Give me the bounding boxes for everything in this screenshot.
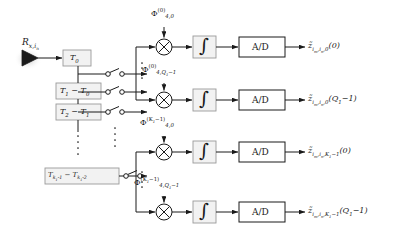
- phase-label-2: Φ(K1−1)4,0: [140, 117, 174, 129]
- integrator-symbol-0: ∫: [199, 36, 209, 55]
- integrator-symbol-3: ∫: [199, 201, 209, 220]
- vertical-dots-delay-chain: [114, 127, 116, 147]
- adc-label-3: A/D: [252, 208, 269, 217]
- output-label-1: z̃im,in,0(Q1−1): [308, 95, 357, 107]
- output-label-2: z̃im,in,K1−1(0): [308, 147, 351, 159]
- switch-pole-row-1[interactable]: [106, 90, 111, 95]
- switch-throw-row-0[interactable]: [120, 72, 125, 77]
- switch-blade-row-1[interactable]: [110, 87, 119, 91]
- switch-blade-row-0[interactable]: [110, 69, 119, 73]
- output-label-0: z̃im,in,0(0): [308, 42, 340, 54]
- phase-label-1: Φ(0)4,Q1−1: [142, 64, 176, 78]
- output-label-3: z̃im,in,K1−1(Q1−1): [308, 207, 368, 219]
- integrator-symbol-1: ∫: [199, 89, 209, 108]
- switch-pole-row-2[interactable]: [106, 110, 111, 115]
- delay-box-label-t0: T0: [70, 54, 79, 64]
- phase-label-0: Φ(0)4,0: [151, 8, 174, 20]
- delay-box-label-t1-t0: T1 − T0: [60, 87, 89, 97]
- vertical-dots-spine-chain: [77, 135, 79, 155]
- switch-blade-row-2[interactable]: [110, 107, 119, 111]
- phase-label-3: Φ(K1−1)4,Q1−1: [134, 177, 179, 191]
- source-label: Rx,in: [22, 38, 39, 51]
- switch-pole-row-3[interactable]: [124, 174, 129, 179]
- delay-box-label-t2-t1: T2 − T1: [60, 108, 89, 118]
- adc-label-0: A/D: [252, 43, 269, 52]
- switch-throw-row-2[interactable]: [120, 110, 125, 115]
- switch-pole-row-0[interactable]: [106, 72, 111, 77]
- delay-box-label-tk-last: Tk1-1 − Tk1-2: [48, 172, 87, 183]
- adc-label-2: A/D: [252, 148, 269, 157]
- switch-throw-row-1[interactable]: [120, 90, 125, 95]
- integrator-symbol-2: ∫: [199, 141, 209, 160]
- adc-label-1: A/D: [252, 96, 269, 105]
- diagram-canvas: Rx,in T0 T1 − T0 T2 − T1 Tk1-1 − Tk1-2 Φ…: [0, 0, 400, 239]
